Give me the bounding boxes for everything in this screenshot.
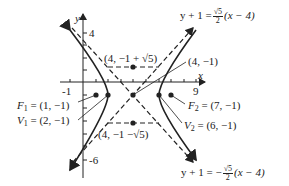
leader-lines	[78, 62, 186, 123]
top-box-label: (4, −1 + √5)	[104, 53, 157, 64]
bottom-box-label: (4, −1 −√5)	[98, 129, 149, 140]
x-tick-label-neg1: -1	[62, 86, 71, 97]
bottom-box-point	[130, 120, 135, 125]
focus-1-label: F1 = (1, −1)	[17, 100, 69, 113]
fraction: √52	[213, 8, 223, 25]
vertex-1-label: V1 = (2, −1)	[17, 115, 69, 128]
x-axis-label: x	[198, 70, 203, 81]
vertex-1-point	[105, 92, 110, 97]
focus-2-point	[168, 92, 173, 97]
center-point	[130, 92, 135, 97]
y-tick-label-4: 4	[89, 28, 95, 39]
focus-1-point	[93, 92, 98, 97]
vertex-2-point	[156, 92, 161, 97]
right-branch	[159, 30, 196, 160]
hyperbola-graph	[0, 0, 289, 186]
hyperbola-branches	[70, 30, 196, 170]
asymptote-positive-equation: y + 1 =√52(x − 4)	[180, 8, 255, 25]
focus-2-label: F2 = (7, −1)	[188, 100, 240, 113]
y-tick-label-neg6: -6	[89, 155, 98, 166]
asymptote-negative-equation: y + 1 = −√52(x − 4)	[181, 165, 265, 182]
top-box-point	[130, 64, 135, 69]
y-axis-label: y	[75, 13, 80, 24]
center-label: (4, −1)	[188, 56, 218, 67]
points	[93, 64, 173, 125]
vertex-2-label: V2 = (6, −1)	[184, 120, 236, 133]
x-tick-label-9: 9	[193, 86, 199, 97]
fraction: √52	[223, 165, 233, 182]
